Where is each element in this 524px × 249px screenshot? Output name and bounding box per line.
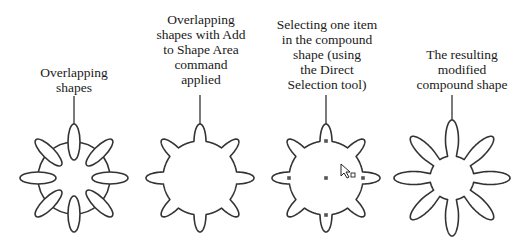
modified-outline xyxy=(394,120,510,236)
callout-leaders xyxy=(74,95,452,127)
shape-direct-selection xyxy=(272,124,380,232)
petal-ellipse xyxy=(20,172,56,184)
center-point xyxy=(324,176,328,180)
unioned-outline xyxy=(146,124,254,232)
anchor-point xyxy=(324,139,328,143)
anchor-point xyxy=(361,176,365,180)
petal-ellipse xyxy=(82,136,116,170)
shape-overlapping xyxy=(20,124,128,232)
shape-unioned xyxy=(146,124,254,232)
petal-ellipse xyxy=(82,186,116,220)
petal-ellipse xyxy=(32,186,66,220)
cursor-square-icon xyxy=(351,173,355,177)
petal-ellipse xyxy=(68,196,80,232)
anchor-point xyxy=(324,213,328,217)
petal-ellipse xyxy=(32,136,66,170)
petal-ellipse xyxy=(68,124,80,160)
anchor-point xyxy=(287,176,291,180)
petal-ellipse xyxy=(92,172,128,184)
shape-modified xyxy=(394,120,510,236)
diagram-canvas xyxy=(0,0,524,249)
